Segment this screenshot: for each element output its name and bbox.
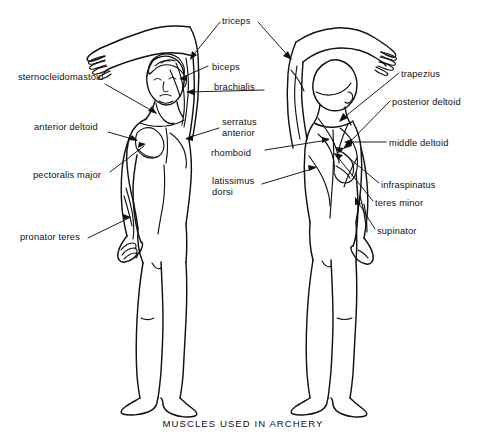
arrowhead-teres-minor [334,153,343,160]
front-chin [159,101,173,103]
back-latissimus-dorsi-left [309,156,330,206]
front-brachialis-line [170,70,180,97]
back-head [313,60,357,111]
front-serratus-anterior [170,133,186,168]
label-sternocleidomastoid: sternocleidomastoid [18,72,138,83]
label-brachialis: brachialis [214,82,289,93]
label-biceps: biceps [212,62,272,73]
diagram-caption: MUSCLES USED IN ARCHERY [0,418,486,429]
back-ear [345,92,353,103]
front-leg-inner [158,262,163,398]
front-knee-left [141,318,154,320]
back-torso-left [304,124,313,222]
front-sternocleidomastoid [156,103,174,123]
front-foot-left [121,398,158,415]
front-head [147,56,185,105]
arrowhead-brachialis [186,89,194,95]
back-right-hand-crease [358,250,368,258]
front-arm-lateral-edge [189,56,194,140]
label-anterior-deltoid: anterior deltoid [34,122,144,133]
back-head-hairline [316,83,351,95]
leader-triceps-back [258,22,290,58]
back-leg-right-outer [350,261,357,398]
leader-trapezius [341,73,399,120]
front-mouth [160,95,171,97]
front-clavicle [140,120,184,126]
front-pectoralis-lower [138,149,157,157]
anatomy-diagram: sternocleidomastoid anterior deltoid pec… [0,0,486,445]
label-middle-deltoid: middle deltoid [389,138,479,149]
back-spine [330,130,334,218]
label-serratus-anterior: serratus anterior [222,117,292,139]
front-crotch [152,263,161,269]
back-leg-left-outer [306,260,313,398]
front-nose [163,82,168,92]
front-abdomen-line [158,165,165,234]
front-forearm-line [124,196,132,226]
front-foot-right [161,398,197,417]
label-supinator: supinator [377,226,457,237]
back-figure [287,28,396,417]
front-figure [87,26,199,417]
front-leg-left-outer [136,263,143,398]
front-hair-strand-2 [161,60,175,63]
back-raised-arm-outer [296,28,396,57]
back-knee-right [337,318,352,320]
label-infraspinatus: infraspinatus [381,180,471,191]
back-gluteal-line [322,261,331,267]
front-chest-midline [166,128,168,163]
back-foot-right [331,398,367,417]
back-trapezius [318,118,339,163]
label-posterior-deltoid: posterior deltoid [392,97,486,108]
front-neck-right [177,102,183,117]
label-pectoralis-major: pectoralis major [33,170,143,181]
label-latissimus-dorsi: latissimus dorsi [212,176,282,198]
back-upper-arm-left-inner [302,62,307,139]
back-triceps-contour [295,66,300,139]
back-raised-arm-inner [303,48,386,66]
leader-infraspinatus [337,148,379,183]
front-waist-right [186,224,187,262]
label-teres-minor: teres minor [375,198,460,209]
back-leg-inner [328,260,333,398]
back-foot-left [291,398,328,415]
back-waist-left [310,222,313,260]
front-torso-right [186,140,191,224]
label-pronator-teres: pronator teres [20,232,120,243]
front-eye-left [154,79,161,81]
label-triceps: triceps [222,16,292,27]
label-rhomboid: rhomboid [211,148,277,159]
front-eye-right [169,78,176,80]
front-leg-right-outer [180,262,187,398]
label-trapezius: trapezius [401,69,481,80]
back-raised-hand-thumb [375,67,388,75]
